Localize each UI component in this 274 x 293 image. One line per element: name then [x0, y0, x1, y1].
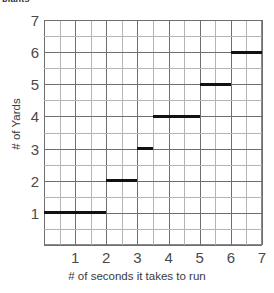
grid-minor-horizontal [44, 133, 262, 134]
x-tick-label: 2 [91, 250, 121, 265]
grid-major-horizontal [44, 245, 262, 246]
step-segment [106, 179, 137, 182]
grid-minor-horizontal [44, 229, 262, 230]
x-tick-label: 3 [122, 250, 152, 265]
x-tick-label: 1 [60, 250, 90, 265]
grid-minor-horizontal [44, 68, 262, 69]
y-axis-title: # of Yards [10, 64, 22, 184]
step-segment [44, 211, 106, 214]
step-segment [231, 51, 262, 54]
y-tick-label: 6 [0, 45, 39, 60]
plot-area [44, 20, 262, 245]
grid-minor-horizontal [44, 36, 262, 37]
grid-major-vertical [262, 20, 263, 245]
step-chart-figure: plants 1234567 1234567 # of seconds it t… [0, 0, 274, 293]
step-segment [200, 83, 231, 86]
x-axis-tick-labels: 1234567 [44, 250, 262, 268]
grid-major-horizontal [44, 181, 262, 182]
grid-minor-horizontal [44, 100, 262, 101]
grid-major-horizontal [44, 149, 262, 150]
x-tick-label: 5 [185, 250, 215, 265]
x-tick-label: 7 [247, 250, 274, 265]
grid-major-horizontal [44, 20, 262, 21]
y-tick-label: 7 [0, 13, 39, 28]
clipped-caption: plants [2, 0, 30, 2]
x-tick-label: 6 [216, 250, 246, 265]
y-tick-label: 1 [0, 206, 39, 221]
grid-minor-horizontal [44, 197, 262, 198]
x-tick-label: 4 [154, 250, 184, 265]
grid-minor-horizontal [44, 165, 262, 166]
x-axis-title: # of seconds it takes to run [0, 270, 274, 282]
step-segment [137, 147, 153, 150]
grid-major-horizontal [44, 52, 262, 53]
step-segment [153, 115, 200, 118]
